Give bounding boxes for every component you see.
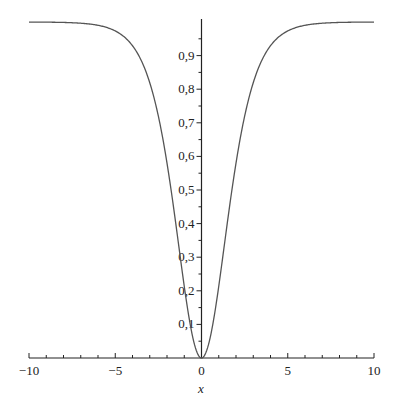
y-tick-label: 0,4 — [178, 216, 195, 231]
plot: −10−50510 0,10,20,30,40,50,60,70,80,9 x — [0, 0, 396, 416]
y-tick-label: 0,1 — [178, 316, 194, 331]
y-tick-label: 0,5 — [178, 182, 194, 197]
y-tick-label: 0,2 — [178, 283, 194, 298]
x-tick-label: 10 — [368, 363, 381, 378]
y-tick-label: 0,9 — [178, 48, 194, 63]
y-tick-label: 0,6 — [178, 148, 195, 163]
y-tick-label: 0,8 — [178, 81, 194, 96]
y-axis: 0,10,20,30,40,50,60,70,80,9 — [178, 19, 201, 358]
x-tick-label: −5 — [108, 363, 122, 378]
x-tick-label: −10 — [19, 363, 39, 378]
x-tick-label: 5 — [285, 363, 292, 378]
x-tick-label: 0 — [198, 363, 205, 378]
x-axis-label: x — [197, 381, 204, 396]
y-tick-label: 0,7 — [178, 115, 195, 130]
